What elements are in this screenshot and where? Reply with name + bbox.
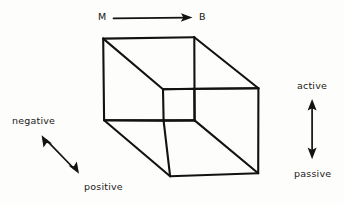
axis-label-m: M	[98, 12, 106, 22]
figure-canvas: .ln { stroke: #121212; stroke-width: 2.1…	[0, 0, 344, 205]
cube-diagram-svg: .ln { stroke: #121212; stroke-width: 2.1…	[0, 0, 344, 205]
axis-label-passive: passive	[294, 169, 331, 179]
double-headed-diagonal-arrow-icon	[42, 135, 79, 174]
double-headed-vertical-arrow-icon	[308, 99, 317, 159]
axis-label-positive: positive	[84, 182, 123, 192]
axis-label-active: active	[297, 81, 327, 91]
axis-label-negative: negative	[12, 116, 55, 126]
wireframe-cube-icon	[103, 37, 258, 176]
arrow-right-icon	[114, 13, 193, 22]
axis-label-b: B	[199, 12, 206, 22]
